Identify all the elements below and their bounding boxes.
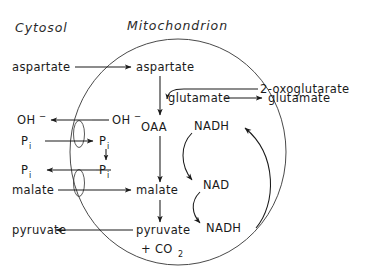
label-oaa: OAA xyxy=(141,120,167,134)
label-cytosol-phosphate-upper-sub: i xyxy=(29,142,32,151)
label-carbon-dioxide-sub: 2 xyxy=(178,250,183,259)
label-nad: NAD xyxy=(203,178,229,192)
label-cytosol-hydroxide-text: OH xyxy=(17,113,35,127)
label-cytosol-phosphate-lower-text: P xyxy=(21,163,28,177)
label-cytosol-phosphate-upper: P i xyxy=(21,134,32,151)
label-cytosol-phosphate-upper-text: P xyxy=(21,134,28,148)
label-cytosol-phosphate-lower: P i xyxy=(21,163,32,180)
label-cytosol-phosphate-lower-sub: i xyxy=(29,171,32,180)
label-cytosol-aspartate: aspartate xyxy=(12,60,70,74)
label-carbon-dioxide-text: + CO xyxy=(141,242,173,256)
compartment-label-cytosol: Cytosol xyxy=(15,20,68,35)
label-mito-hydroxide-text: OH xyxy=(112,113,130,127)
label-mito-phosphate-upper: P i xyxy=(99,134,110,151)
label-cytosol-pyruvate: pyruvate xyxy=(12,223,66,237)
phosphate-carrier-icon xyxy=(74,121,85,148)
label-mito-aspartate: aspartate xyxy=(136,60,194,74)
label-mito-phosphate-upper-sub: i xyxy=(107,142,110,151)
label-mito-malate: malate xyxy=(136,183,178,197)
label-mito-phosphate-upper-text: P xyxy=(99,134,106,148)
label-cytosol-hydroxide: OH − xyxy=(17,111,46,127)
label-nadh-bottom: NADH xyxy=(206,221,241,235)
label-cytosol-hydroxide-charge: − xyxy=(39,111,46,121)
label-nadh-top: NADH xyxy=(194,119,229,133)
shuttle-diagram: Cytosol Mitochondrion aspartate aspartat… xyxy=(0,0,374,276)
label-mito-hydroxide-charge: − xyxy=(134,111,141,121)
label-cytosol-malate: malate xyxy=(12,183,54,197)
label-carbon-dioxide: + CO 2 xyxy=(141,242,183,259)
arrow-nadh-recycle xyxy=(245,128,271,228)
arrow-nadh-to-nad xyxy=(183,133,192,180)
label-mito-pyruvate: pyruvate xyxy=(136,223,190,237)
label-mito-phosphate-lower: P i xyxy=(99,163,110,180)
dicarboxylate-carrier-icon xyxy=(74,170,85,197)
label-mito-phosphate-lower-sub: i xyxy=(107,171,110,180)
compartment-label-mitochondrion: Mitochondrion xyxy=(127,18,228,33)
label-mito-phosphate-lower-text: P xyxy=(99,163,106,177)
label-glutamate-cytosol: glutamate xyxy=(268,91,330,105)
arrow-nad-to-nadh xyxy=(193,192,200,223)
diagram-canvas: Cytosol Mitochondrion aspartate aspartat… xyxy=(0,0,374,276)
label-glutamate-mito: glutamate xyxy=(168,91,230,105)
label-mito-hydroxide: OH − xyxy=(112,111,141,127)
